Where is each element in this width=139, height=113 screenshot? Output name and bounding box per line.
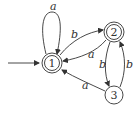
state-1: 1 [42,53,62,73]
state-3: 3 [105,86,123,104]
transition-1-2 [60,30,103,55]
transition-label-2-1: a [88,48,95,61]
transition-label-3-2: b [126,58,133,71]
transition-1-1 [43,12,61,54]
transition-label-1-2: b [71,28,78,41]
transition-label-2-3: b [99,58,106,71]
state-2: 2 [104,22,124,42]
state-label-2: 2 [111,26,118,39]
state-label-1: 1 [49,57,56,70]
transition-2-3 [105,42,110,86]
state-label-3: 3 [111,89,118,102]
transition-3-2 [120,42,125,87]
automaton-diagram: a b a b b a 1 2 3 [0,0,139,113]
transition-label-3-1: a [82,79,89,92]
transition-label-1-1: a [50,0,57,13]
